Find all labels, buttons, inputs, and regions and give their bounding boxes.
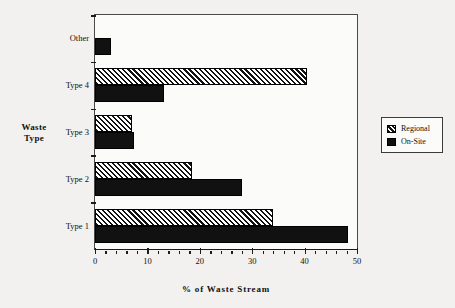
legend-item-regional: Regional <box>387 123 437 134</box>
y-axis-tick <box>91 62 96 64</box>
x-axis-minor-tick <box>126 251 127 255</box>
x-axis-minor-tick <box>273 251 274 255</box>
chart-legend: Regional On-Site <box>381 117 443 153</box>
bar-type-2-on-site <box>95 179 242 196</box>
bar-type-4-on-site <box>95 85 164 102</box>
x-axis-minor-tick <box>242 251 243 255</box>
x-tick-label-40: 40 <box>300 256 309 266</box>
chart-figure: Waste Type Type 1Type 2Type 3Type 4Other… <box>0 0 455 308</box>
x-axis-major-tick <box>200 248 201 254</box>
plot-area: Type 1Type 2Type 3Type 4Other <box>95 15 357 249</box>
y-tick-label-type-3: Type 3 <box>66 127 89 137</box>
y-tick-label-other: Other <box>70 33 89 43</box>
x-axis-minor-tick <box>315 251 316 255</box>
x-axis-minor-tick <box>179 251 180 255</box>
x-axis-minor-tick <box>263 251 264 255</box>
x-axis-minor-tick <box>189 251 190 255</box>
x-axis-minor-tick <box>326 251 327 255</box>
bar-type-1-regional <box>95 209 273 226</box>
x-tick-label-20: 20 <box>196 256 205 266</box>
x-axis-major-tick <box>305 248 306 254</box>
bar-type-3-regional <box>95 115 132 132</box>
legend-item-on-site: On-Site <box>387 136 437 147</box>
x-axis-major-tick <box>147 248 148 254</box>
x-tick-label-10: 10 <box>143 256 152 266</box>
x-axis-minor-tick <box>210 251 211 255</box>
x-axis-minor-tick <box>336 251 337 255</box>
x-axis-title: % of Waste Stream <box>94 284 358 294</box>
x-axis-minor-tick <box>168 251 169 255</box>
x-axis-minor-tick <box>347 251 348 255</box>
bar-other-on-site <box>95 38 111 55</box>
bar-type-4-regional <box>95 68 307 85</box>
x-axis-minor-tick <box>294 251 295 255</box>
y-axis-tick <box>91 109 96 111</box>
x-axis-minor-tick <box>221 251 222 255</box>
x-axis-major-tick <box>95 248 96 254</box>
bar-type-1-on-site <box>95 226 348 243</box>
bar-type-3-on-site <box>95 132 134 149</box>
y-axis-title-line1: Waste <box>6 122 62 133</box>
y-tick-label-type-2: Type 2 <box>66 174 89 184</box>
solid-swatch-icon <box>387 138 396 146</box>
x-axis-minor-tick <box>116 251 117 255</box>
y-tick-label-type-1: Type 1 <box>66 221 89 231</box>
x-axis-minor-tick <box>137 251 138 255</box>
x-tick-label-50: 50 <box>353 256 362 266</box>
y-axis-tick <box>91 202 96 204</box>
bar-type-2-regional <box>95 162 192 179</box>
x-axis-minor-tick <box>284 251 285 255</box>
hatched-swatch-icon <box>387 125 396 133</box>
legend-label-regional: Regional <box>401 124 430 133</box>
y-tick-label-type-4: Type 4 <box>66 80 89 90</box>
x-axis-minor-tick <box>105 251 106 255</box>
y-axis-title: Waste Type <box>6 122 62 144</box>
x-axis-major-tick <box>357 248 358 254</box>
x-tick-label-0: 0 <box>93 256 97 266</box>
y-axis-tick <box>91 155 96 157</box>
x-tick-label-30: 30 <box>248 256 257 266</box>
legend-label-on-site: On-Site <box>401 137 426 146</box>
x-axis-minor-tick <box>231 251 232 255</box>
x-axis-minor-tick <box>158 251 159 255</box>
y-axis-tick <box>91 15 96 17</box>
x-axis-major-tick <box>252 248 253 254</box>
y-axis-title-line2: Type <box>6 133 62 144</box>
